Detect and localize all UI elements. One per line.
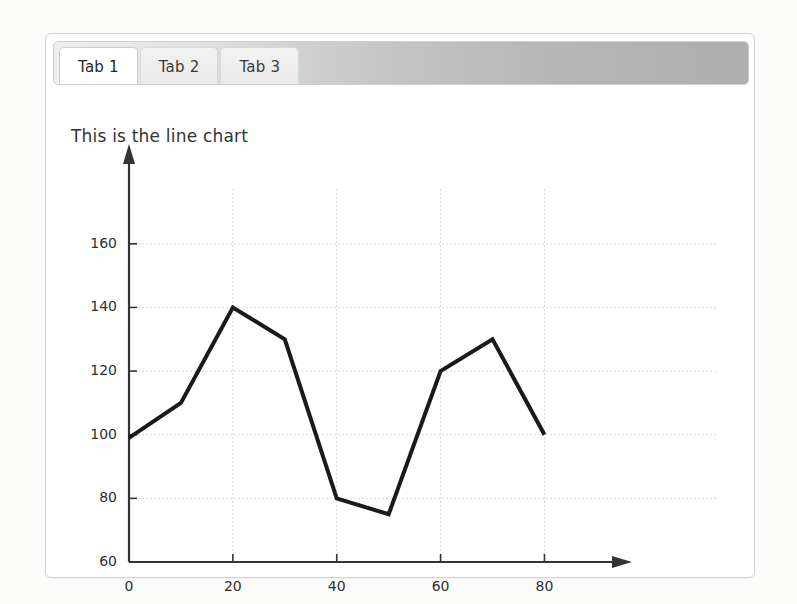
x-axis-arrow	[612, 556, 632, 568]
y-axis-tick-label: 120	[77, 362, 117, 378]
tab-list: Tab 1 Tab 2 Tab 3	[59, 47, 301, 85]
x-axis-tick-label: 80	[524, 578, 564, 594]
tab-tab-3[interactable]: Tab 3	[220, 47, 299, 85]
tab-tab-1[interactable]: Tab 1	[59, 47, 138, 85]
x-axis-tick-label: 60	[421, 578, 461, 594]
x-axis-tick-label: 40	[317, 578, 357, 594]
line-chart: 6080100120140160020406080	[46, 94, 756, 579]
chart-canvas	[46, 94, 756, 579]
y-axis-tick-label: 140	[77, 298, 117, 314]
y-axis-tick-label: 100	[77, 426, 117, 442]
x-axis-tick-label: 20	[213, 578, 253, 594]
y-axis-arrow	[123, 144, 135, 164]
y-axis-tick-label: 160	[77, 235, 117, 251]
tab-tab-2[interactable]: Tab 2	[140, 47, 219, 85]
y-axis-tick-label: 60	[77, 553, 117, 569]
y-axis-tick-label: 80	[77, 489, 117, 505]
x-axis-tick-label: 0	[109, 578, 149, 594]
tab-panel: Tab 1 Tab 2 Tab 3 This is the line chart…	[45, 33, 755, 578]
tab-bar: Tab 1 Tab 2 Tab 3	[53, 41, 749, 85]
